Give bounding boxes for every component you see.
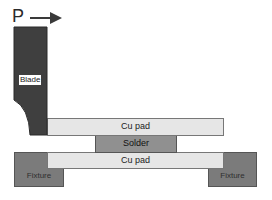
blade-shape bbox=[0, 0, 272, 200]
blade-label: Blade bbox=[19, 75, 41, 85]
